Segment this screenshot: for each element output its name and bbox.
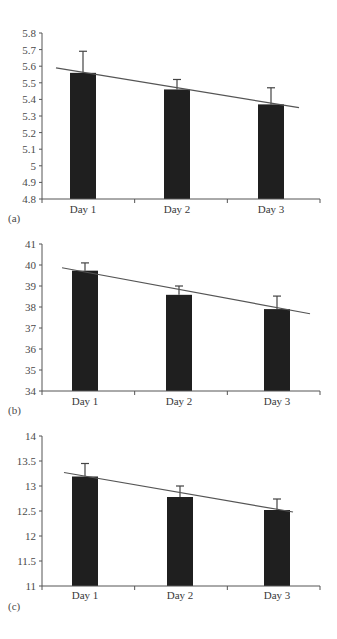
bar-day-1	[70, 73, 96, 199]
bar-day-3	[258, 104, 284, 199]
y-tick-label: 5.1	[22, 143, 36, 155]
chart-panel-a: 5.85.75.65.55.45.35.25.154.94.8Day 1Day …	[8, 27, 320, 225]
y-tick-label: 11.5	[17, 555, 36, 567]
y-tick-label: 37	[25, 322, 37, 334]
bar-day-1	[72, 271, 98, 391]
y-tick-label: 38	[25, 301, 37, 313]
bar-day-2	[166, 295, 192, 391]
x-category-label: Day 2	[167, 589, 194, 601]
chart-panel-c: 1413.51312.51211.511Day 1Day 2Day 3(c)	[8, 430, 320, 613]
figure: 5.85.75.65.55.45.35.25.154.94.8Day 1Day …	[0, 0, 337, 639]
y-tick-label: 39	[25, 280, 37, 292]
y-tick-label: 12.5	[17, 505, 37, 517]
panel-label: (a)	[8, 212, 21, 225]
x-category-label: Day 2	[164, 203, 191, 215]
bar-day-2	[167, 497, 193, 586]
bar-day-1	[72, 477, 98, 587]
y-tick-label: 4.8	[22, 193, 36, 205]
y-tick-label: 41	[25, 238, 36, 250]
panel-label: (c)	[8, 600, 21, 613]
y-tick-label: 34	[25, 385, 37, 397]
x-category-label: Day 3	[258, 203, 285, 215]
y-tick-label: 5.2	[22, 127, 36, 139]
y-tick-label: 5.7	[22, 44, 36, 56]
y-tick-label: 5.6	[22, 60, 36, 72]
y-tick-label: 35	[25, 364, 37, 376]
y-tick-label: 14	[25, 430, 37, 442]
y-tick-label: 11	[25, 580, 36, 592]
panel-label: (b)	[8, 404, 21, 417]
y-tick-label: 36	[25, 343, 37, 355]
y-tick-label: 5.3	[22, 110, 36, 122]
y-tick-label: 13	[25, 480, 37, 492]
y-tick-label: 40	[25, 259, 37, 271]
y-tick-label: 4.9	[22, 176, 36, 188]
bar-day-2	[164, 89, 190, 199]
y-tick-label: 13.5	[17, 455, 37, 467]
y-tick-label: 5.4	[22, 93, 36, 105]
x-category-label: Day 1	[70, 203, 97, 215]
y-tick-label: 5.5	[22, 77, 36, 89]
x-category-label: Day 2	[166, 395, 193, 407]
y-tick-label: 5.8	[22, 27, 36, 39]
bar-day-3	[264, 309, 290, 391]
x-category-label: Day 3	[264, 589, 291, 601]
x-category-label: Day 3	[264, 395, 291, 407]
x-category-label: Day 1	[72, 395, 99, 407]
bar-day-3	[264, 510, 290, 586]
y-tick-label: 5	[31, 160, 37, 172]
y-tick-label: 12	[25, 530, 36, 542]
chart-panel-b: 4140393837363534Day 1Day 2Day 3(b)	[8, 238, 320, 417]
x-category-label: Day 1	[72, 589, 99, 601]
